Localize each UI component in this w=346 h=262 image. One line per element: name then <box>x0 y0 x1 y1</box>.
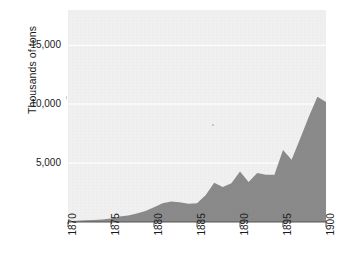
x-tick-label-1890: 1890 <box>239 213 250 235</box>
x-tick-label-1900: 1900 <box>325 213 336 235</box>
x-axis-tick-labels: 1870187518801885189018951900 <box>0 0 346 262</box>
x-tick-label-1875: 1875 <box>110 213 121 235</box>
chart-figure: Thousands of tons 5,00010,00015,000 1870… <box>0 0 346 262</box>
scan-artifact-speck <box>66 96 67 99</box>
x-tick-label-1895: 1895 <box>282 213 293 235</box>
x-tick-label-1870: 1870 <box>67 213 78 235</box>
x-tick-label-1885: 1885 <box>196 213 207 235</box>
scan-artifact-speck <box>212 124 214 126</box>
x-tick-label-1880: 1880 <box>153 213 164 235</box>
